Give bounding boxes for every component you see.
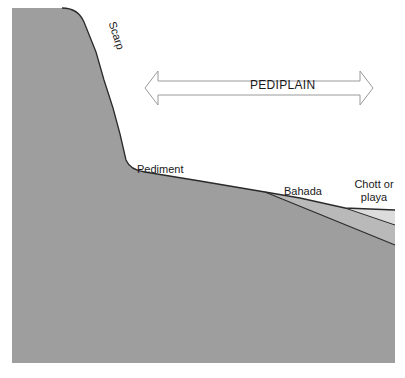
pediment-label: Pediment	[137, 163, 183, 176]
chott-label-line1: Chott or	[344, 178, 404, 191]
chott-label-line2: playa	[344, 191, 404, 204]
bedrock-mass	[12, 8, 395, 363]
chott-playa-label: Chott or playa	[344, 178, 404, 204]
pediplain-label: PEDIPLAIN	[250, 79, 315, 92]
bahada-label: Bahada	[284, 185, 322, 198]
